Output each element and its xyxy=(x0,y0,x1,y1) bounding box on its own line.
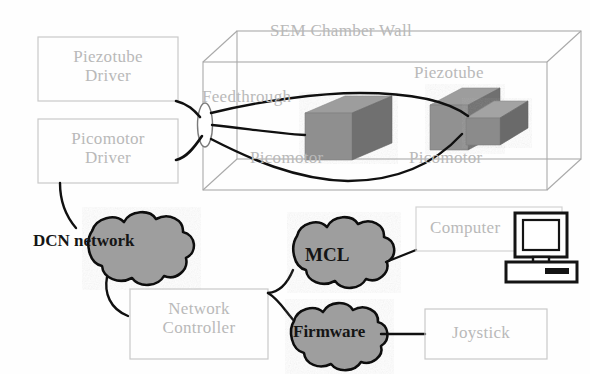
diagram-vector-layer xyxy=(0,0,590,374)
diagram-canvas: Piezotube Driver Picomotor Driver SEM Ch… xyxy=(0,0,590,374)
link-dcn-to-controller xyxy=(106,277,128,316)
firmware-cloud[interactable] xyxy=(291,303,387,370)
dcn-network-cloud[interactable] xyxy=(88,212,194,285)
piezotube-driver-box[interactable] xyxy=(38,37,178,101)
link-driver-to-dcn xyxy=(60,183,76,228)
picomotor-block-left xyxy=(305,96,392,160)
picomotor-driver-box[interactable] xyxy=(38,119,178,183)
link-controller-to-clouds xyxy=(268,270,297,324)
mcl-cloud[interactable] xyxy=(293,217,394,288)
desktop-computer-icon xyxy=(506,213,577,282)
joystick-box[interactable] xyxy=(425,309,547,359)
network-controller-box[interactable] xyxy=(130,289,268,359)
